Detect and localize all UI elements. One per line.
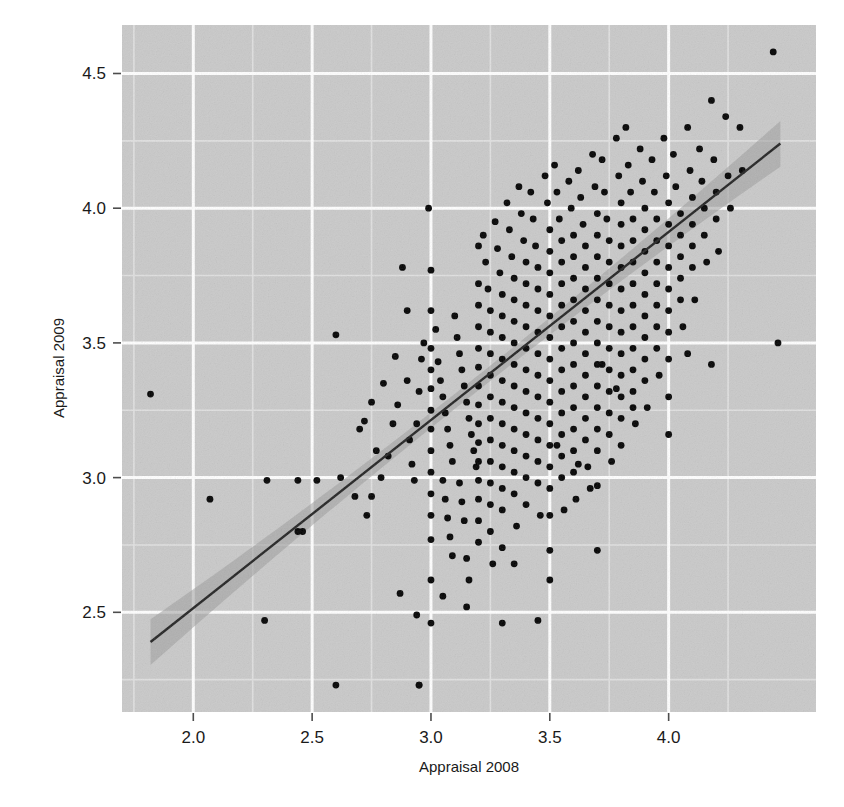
y-tick-label: 3.5 (82, 334, 106, 353)
y-tick-label: 4.0 (82, 199, 106, 218)
x-tick-label: 3.0 (419, 728, 443, 747)
scatter-plot: 2.02.53.03.54.0 2.53.03.54.04.5 Appraisa… (0, 0, 844, 807)
y-tick-label: 4.5 (82, 64, 106, 83)
x-tick-label: 4.0 (657, 728, 681, 747)
y-tick-label: 3.0 (82, 469, 106, 488)
x-tick-label: 2.5 (300, 728, 324, 747)
x-tick-label: 2.0 (181, 728, 205, 747)
chart-figure: 2.02.53.03.54.0 2.53.03.54.04.5 Appraisa… (0, 0, 844, 807)
x-axis-title: Appraisal 2008 (419, 758, 519, 775)
y-tick-label: 2.5 (82, 603, 106, 622)
x-tick-label: 3.5 (538, 728, 562, 747)
y-axis-title: Appraisal 2009 (50, 318, 67, 418)
